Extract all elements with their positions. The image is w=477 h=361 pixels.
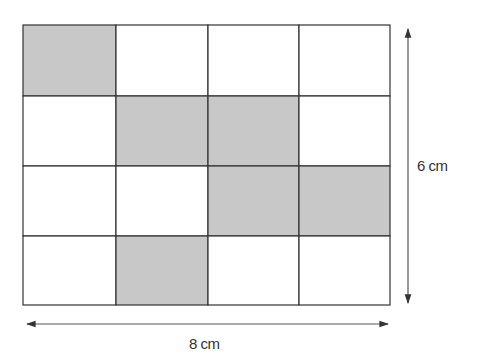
empty-cell xyxy=(116,166,208,236)
grid-diagram xyxy=(0,0,477,361)
height-label: 6 cm xyxy=(417,157,448,174)
grid-cells xyxy=(23,25,390,305)
empty-cell xyxy=(299,25,390,96)
empty-cell xyxy=(208,236,299,305)
shaded-cell xyxy=(23,25,116,96)
shaded-cell xyxy=(208,166,299,236)
empty-cell xyxy=(208,25,299,96)
empty-cell xyxy=(299,96,390,166)
empty-cell xyxy=(299,236,390,305)
empty-cell xyxy=(23,96,116,166)
shaded-cell xyxy=(116,96,208,166)
empty-cell xyxy=(23,166,116,236)
width-label: 8 cm xyxy=(189,335,220,352)
shaded-cell xyxy=(208,96,299,166)
shaded-cell xyxy=(116,236,208,305)
empty-cell xyxy=(116,25,208,96)
shaded-cell xyxy=(299,166,390,236)
empty-cell xyxy=(23,236,116,305)
